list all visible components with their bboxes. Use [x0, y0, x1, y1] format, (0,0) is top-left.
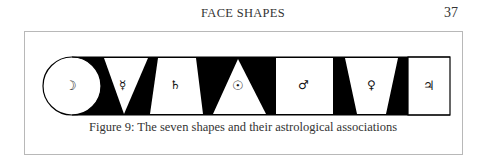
jupiter-symbol-icon: ♃ [423, 78, 435, 93]
sun-symbol-icon: ☉ [232, 78, 244, 93]
saturn-symbol-icon: ♄ [170, 78, 181, 92]
venus-symbol-icon: ♀ [367, 78, 376, 92]
mars-symbol-icon: ♂ [298, 78, 309, 92]
moon-symbol-icon: ☽ [65, 78, 77, 93]
mercury-symbol-icon: ☿ [119, 78, 126, 92]
figure-caption: Figure 9: The seven shapes and their ast… [0, 120, 486, 135]
